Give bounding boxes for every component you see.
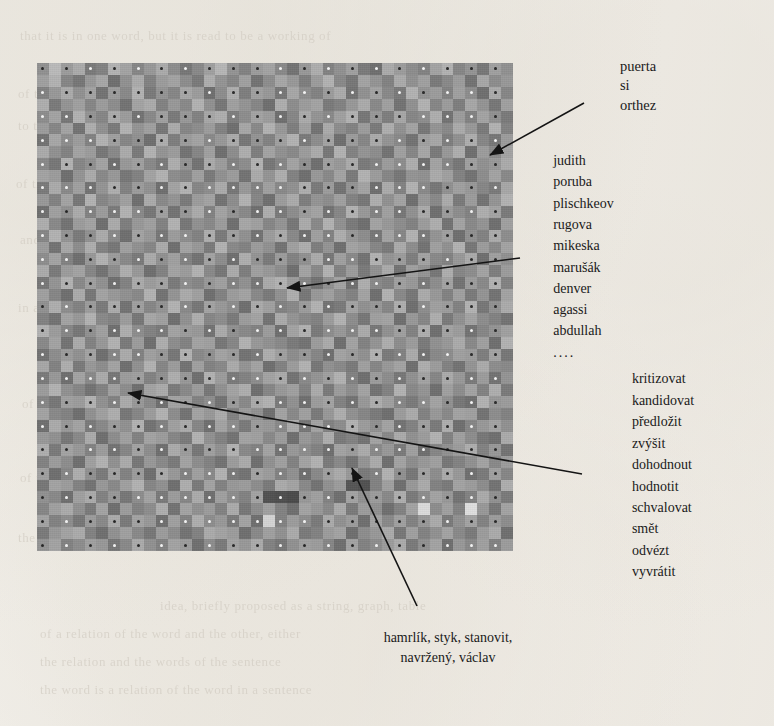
matrix-cell bbox=[394, 372, 406, 384]
matrix-cell bbox=[85, 515, 97, 527]
matrix-cell bbox=[204, 63, 216, 75]
matrix-cell bbox=[49, 432, 61, 444]
matrix-cell bbox=[275, 539, 287, 551]
matrix-cell bbox=[382, 313, 394, 325]
matrix-marker-dot bbox=[41, 448, 44, 451]
matrix-cell bbox=[323, 527, 335, 539]
matrix-cell bbox=[180, 277, 192, 289]
matrix-cell bbox=[418, 325, 430, 337]
matrix-marker-dot bbox=[327, 91, 330, 94]
matrix-cell bbox=[394, 75, 406, 87]
matrix-cell bbox=[239, 539, 251, 551]
matrix-cell bbox=[204, 527, 216, 539]
matrix-cell bbox=[239, 515, 251, 527]
matrix-cell bbox=[323, 313, 335, 325]
matrix-cell bbox=[96, 480, 108, 492]
matrix-cell bbox=[501, 480, 513, 492]
matrix-cell bbox=[239, 206, 251, 218]
matrix-cell bbox=[477, 396, 489, 408]
matrix-cell bbox=[204, 123, 216, 135]
matrix-cell bbox=[275, 432, 287, 444]
matrix-cell bbox=[108, 87, 120, 99]
matrix-cell bbox=[370, 99, 382, 111]
matrix-cell bbox=[144, 361, 156, 373]
matrix-cell bbox=[132, 111, 144, 123]
matrix-cell bbox=[85, 503, 97, 515]
matrix-cell bbox=[204, 444, 216, 456]
matrix-cell bbox=[215, 99, 227, 111]
matrix-cell bbox=[108, 194, 120, 206]
matrix-cell bbox=[180, 349, 192, 361]
matrix-cell bbox=[96, 253, 108, 265]
matrix-cell bbox=[180, 527, 192, 539]
matrix-marker-dot bbox=[375, 305, 378, 308]
matrix-cell bbox=[477, 146, 489, 158]
matrix-cell bbox=[394, 432, 406, 444]
matrix-marker-dot bbox=[184, 329, 187, 332]
matrix-cell bbox=[311, 396, 323, 408]
matrix-marker-dot bbox=[279, 234, 282, 237]
matrix-marker-dot bbox=[303, 258, 306, 261]
matrix-cell bbox=[144, 444, 156, 456]
matrix-cell bbox=[489, 242, 501, 254]
matrix-cell bbox=[489, 63, 501, 75]
matrix-cell bbox=[275, 515, 287, 527]
matrix-marker-dot bbox=[446, 448, 449, 451]
matrix-cell bbox=[239, 123, 251, 135]
matrix-cell bbox=[168, 515, 180, 527]
matrix-marker-dot bbox=[160, 472, 163, 475]
matrix-cell bbox=[108, 206, 120, 218]
matrix-cell bbox=[168, 75, 180, 87]
matrix-cell bbox=[180, 361, 192, 373]
matrix-marker-dot bbox=[303, 353, 306, 356]
matrix-marker-dot bbox=[65, 401, 68, 404]
matrix-cell bbox=[453, 361, 465, 373]
matrix-cell bbox=[156, 242, 168, 254]
matrix-cell bbox=[132, 63, 144, 75]
matrix-marker-dot bbox=[65, 425, 68, 428]
matrix-cell bbox=[465, 289, 477, 301]
matrix-marker-dot bbox=[232, 520, 235, 523]
matrix-cell bbox=[204, 420, 216, 432]
matrix-cell bbox=[311, 480, 323, 492]
matrix-cell bbox=[442, 87, 454, 99]
matrix-cell bbox=[144, 182, 156, 194]
matrix-cell bbox=[465, 527, 477, 539]
matrix-cell bbox=[168, 325, 180, 337]
matrix-marker-dot bbox=[232, 115, 235, 118]
matrix-marker-dot bbox=[470, 329, 473, 332]
matrix-marker-dot bbox=[375, 186, 378, 189]
matrix-cell bbox=[180, 87, 192, 99]
matrix-marker-dot bbox=[446, 377, 449, 380]
matrix-marker-dot bbox=[113, 472, 116, 475]
matrix-cell bbox=[96, 539, 108, 551]
matrix-cell bbox=[251, 146, 263, 158]
matrix-cell bbox=[442, 527, 454, 539]
matrix-cell bbox=[251, 87, 263, 99]
matrix-cell bbox=[73, 408, 85, 420]
matrix-cell bbox=[215, 539, 227, 551]
matrix-cell bbox=[442, 182, 454, 194]
matrix-cell bbox=[382, 468, 394, 480]
matrix-cell bbox=[251, 349, 263, 361]
matrix-cell bbox=[334, 491, 346, 503]
matrix-cell bbox=[251, 111, 263, 123]
matrix-marker-dot bbox=[279, 329, 282, 332]
matrix-cell bbox=[406, 265, 418, 277]
matrix-marker-dot bbox=[494, 234, 497, 237]
matrix-marker-dot bbox=[375, 163, 378, 166]
matrix-cell bbox=[442, 480, 454, 492]
matrix-cell bbox=[311, 301, 323, 313]
matrix-marker-dot bbox=[232, 163, 235, 166]
matrix-cell bbox=[215, 444, 227, 456]
matrix-cell bbox=[132, 265, 144, 277]
matrix-cell bbox=[275, 253, 287, 265]
matrix-cell bbox=[275, 361, 287, 373]
matrix-marker-dot bbox=[65, 377, 68, 380]
matrix-cell bbox=[85, 420, 97, 432]
matrix-cell bbox=[477, 503, 489, 515]
matrix-marker-dot bbox=[256, 448, 259, 451]
matrix-cell bbox=[334, 456, 346, 468]
matrix-marker-dot bbox=[446, 282, 449, 285]
matrix-cell bbox=[168, 170, 180, 182]
